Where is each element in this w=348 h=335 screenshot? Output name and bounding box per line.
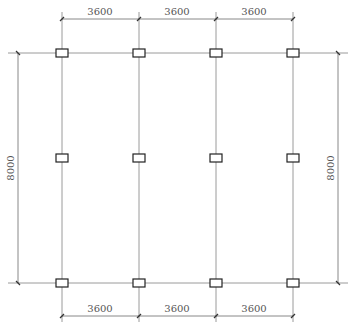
bottom-dim-label-1: 3600: [87, 303, 112, 314]
right-dim-label: 8000: [325, 155, 336, 180]
column-a2: [56, 154, 68, 162]
top-dim-label-2: 3600: [164, 6, 189, 17]
bottom-dim-label-3: 3600: [241, 303, 266, 314]
top-dim-label-1: 3600: [87, 6, 112, 17]
column-d2: [287, 154, 299, 162]
column-a3: [56, 279, 68, 287]
column-b1: [133, 49, 145, 57]
bottom-dim-label-2: 3600: [164, 303, 189, 314]
bottom-dimension: 3600 3600 3600: [60, 303, 295, 318]
top-dim-label-3: 3600: [241, 6, 266, 17]
right-dimension: 8000: [325, 51, 340, 285]
column-grid-plan: 3600 3600 3600 3600 3600 3600 8000 8000: [0, 0, 348, 335]
column-a1: [56, 49, 68, 57]
column-b3: [133, 279, 145, 287]
column-c1: [210, 49, 222, 57]
column-d1: [287, 49, 299, 57]
left-dim-label: 8000: [5, 155, 16, 180]
column-b2: [133, 154, 145, 162]
column-c3: [210, 279, 222, 287]
column-d3: [287, 279, 299, 287]
top-dimension: 3600 3600 3600: [60, 6, 295, 21]
left-dimension: 8000: [5, 51, 20, 285]
column-c2: [210, 154, 222, 162]
